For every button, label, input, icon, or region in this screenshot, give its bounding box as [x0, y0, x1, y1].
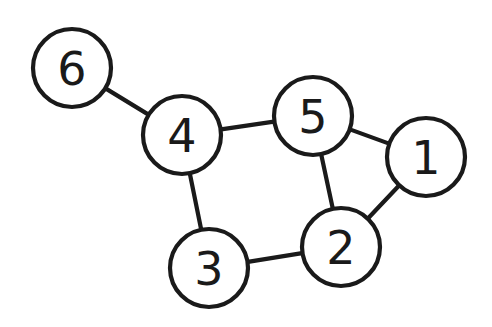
- graph-node-1[interactable]: 1: [387, 118, 465, 196]
- graph-edge-1-2: [367, 184, 400, 219]
- graph-edge-5-2: [321, 153, 333, 210]
- graph-edge-6-4: [104, 88, 149, 116]
- graph-edge-5-1: [349, 129, 391, 144]
- graph-node-4[interactable]: 4: [143, 96, 221, 174]
- graph-diagram: 123456: [0, 0, 492, 327]
- graph-node-circle-2[interactable]: [302, 208, 380, 286]
- graph-node-circle-3[interactable]: [170, 229, 248, 307]
- graph-node-circle-1[interactable]: [387, 118, 465, 196]
- graph-edge-3-2: [246, 253, 303, 262]
- graph-node-2[interactable]: 2: [302, 208, 380, 286]
- graph-node-circle-5[interactable]: [274, 77, 352, 155]
- graph-edge-4-3: [190, 172, 202, 231]
- graph-node-circle-6[interactable]: [33, 29, 111, 107]
- graph-node-3[interactable]: 3: [170, 229, 248, 307]
- graph-canvas: 123456: [0, 0, 492, 327]
- graph-node-5[interactable]: 5: [274, 77, 352, 155]
- node-layer: 123456: [33, 29, 465, 307]
- graph-edge-4-5: [219, 121, 275, 129]
- graph-node-6[interactable]: 6: [33, 29, 111, 107]
- graph-node-circle-4[interactable]: [143, 96, 221, 174]
